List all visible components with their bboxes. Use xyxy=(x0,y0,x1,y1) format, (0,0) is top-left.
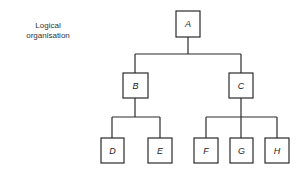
hierarchy-tree: A B C D E F G H xyxy=(0,0,307,172)
node-b: B xyxy=(123,73,148,98)
node-d-label: D xyxy=(109,146,116,156)
node-c-label: C xyxy=(238,81,245,91)
node-g-label: G xyxy=(238,146,245,156)
node-h-label: H xyxy=(274,146,281,156)
edges-level-1 xyxy=(135,37,241,73)
node-h: H xyxy=(265,138,289,163)
node-a: A xyxy=(176,11,200,37)
node-f-label: F xyxy=(203,146,209,156)
node-e: E xyxy=(148,138,172,163)
node-b-label: B xyxy=(132,81,138,91)
node-f: F xyxy=(194,138,218,163)
node-d: D xyxy=(101,138,124,163)
edges-c-children xyxy=(206,98,277,138)
edges-b-children xyxy=(112,98,160,138)
node-g: G xyxy=(230,138,253,163)
node-a-label: A xyxy=(184,19,191,29)
node-c: C xyxy=(229,73,253,98)
node-e-label: E xyxy=(157,146,164,156)
